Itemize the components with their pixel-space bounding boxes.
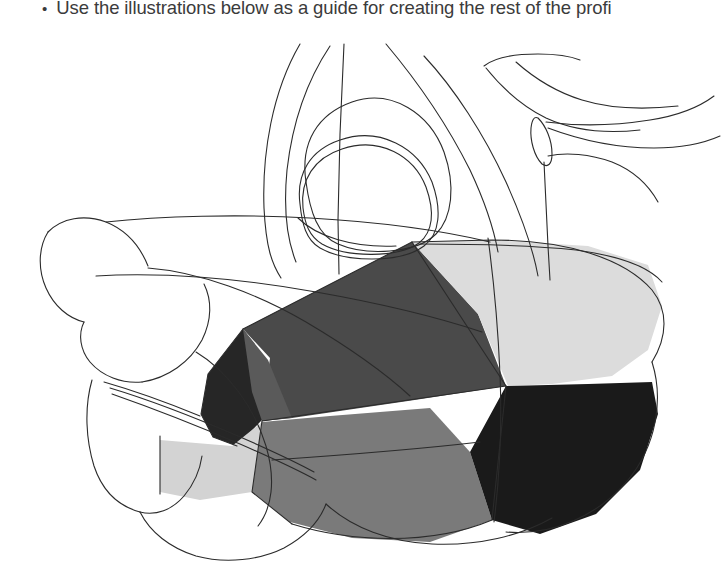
contour-teardrop-mid (299, 136, 438, 259)
bullet-instruction-text: Use the illustrations below as a guide f… (56, 0, 611, 17)
contour-upper-horizontal (106, 216, 490, 242)
bullet-marker: • (42, 1, 47, 16)
shaded-facet-group (160, 240, 662, 542)
contour-upper-dome (264, 44, 300, 278)
profile-illustration (0, 22, 722, 562)
contour-branch-tip (484, 54, 580, 66)
contour-sliver-cap (104, 382, 200, 416)
contour-branch-upper (486, 68, 640, 132)
contour-left-lobe-inner (81, 322, 142, 382)
illustration-canvas (0, 22, 722, 562)
contour-lens-shape (531, 117, 552, 165)
contour-shoulder-right (548, 154, 658, 202)
bullet-instruction-row: • Use the illustrations below as a guide… (0, 0, 722, 23)
contour-left-lobe-top (48, 218, 148, 266)
contour-teardrop-inner (303, 145, 432, 254)
contour-base-left (87, 380, 140, 512)
contour-upper-dome-inner (286, 46, 330, 262)
contour-left-lobe-bottom (142, 284, 210, 382)
facet-lower-mid-gray (252, 408, 492, 542)
contour-left-lobe-outer (40, 232, 84, 322)
contour-branch-lower (546, 96, 714, 125)
contour-branch-upper-2 (516, 62, 678, 108)
